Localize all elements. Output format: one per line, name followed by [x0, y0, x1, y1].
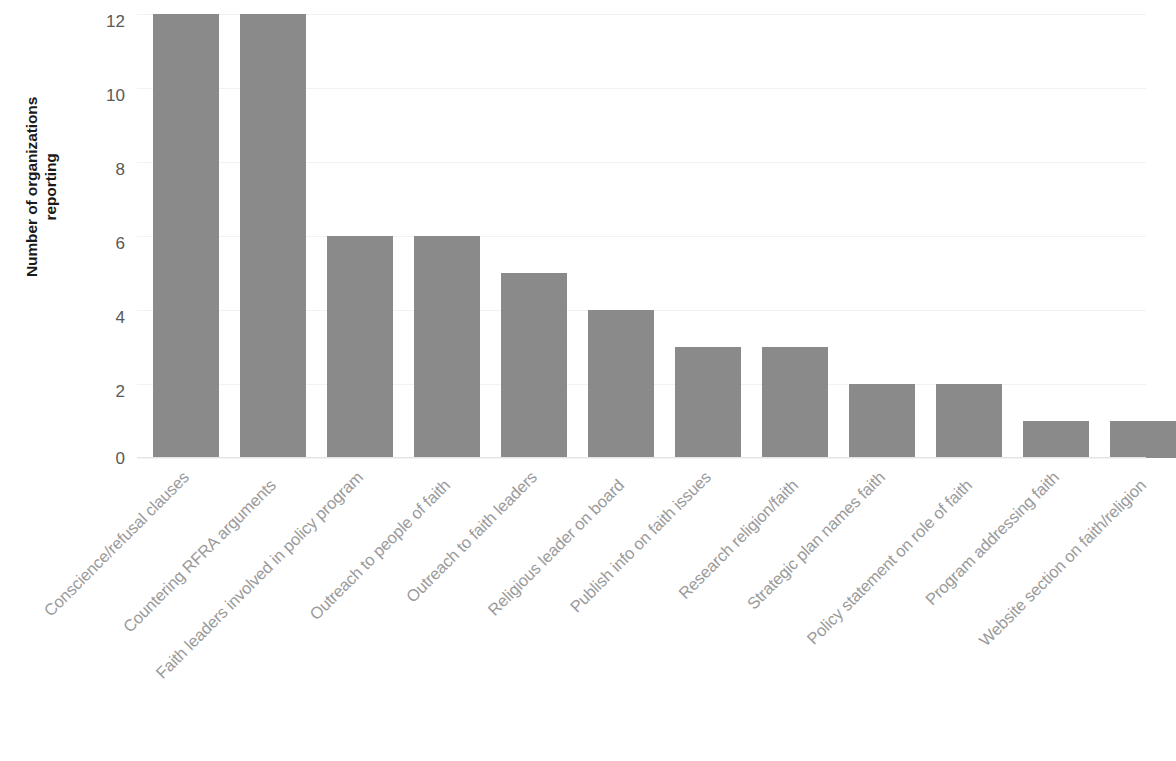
y-axis-tick-labels: 12 10 8 6 4 2 0 — [75, 0, 125, 470]
y-axis-title-line-2: reporting — [42, 97, 61, 277]
y-axis-title-line-1: Number of organizations — [23, 97, 40, 277]
bar — [762, 347, 828, 458]
bar — [588, 310, 654, 458]
y-tick-label-0: 0 — [85, 450, 125, 467]
x-axis-label: Religious leader on board — [191, 476, 627, 761]
x-axis-label: Conscience/refusal clauses — [0, 468, 192, 761]
y-axis-title: Number of organizations reporting — [2, 0, 82, 470]
x-axis-label: Strategic plan names faith — [452, 468, 888, 761]
x-axis-label: Policy statement on role of faith — [539, 476, 975, 761]
y-tick-label-6: 6 — [85, 235, 125, 252]
x-axis-label: Outreach to faith leaders — [104, 468, 540, 761]
x-axis-label: Program addressing faith — [626, 468, 1062, 761]
bar — [240, 14, 306, 458]
x-axis-label: Publish info on faith issues — [278, 468, 714, 761]
bar — [1023, 421, 1089, 458]
bar — [414, 236, 480, 458]
x-axis-line — [137, 457, 1146, 458]
y-tick-label-4: 4 — [85, 309, 125, 326]
x-axis-label: Outreach to people of faith — [17, 476, 453, 761]
bar — [936, 384, 1002, 458]
x-axis-label: Website section on faith/religion — [713, 476, 1149, 761]
bar — [501, 273, 567, 458]
plot-area — [137, 14, 1146, 458]
bar — [1110, 421, 1176, 458]
bar — [327, 236, 393, 458]
gridline-0 — [137, 458, 1146, 459]
x-axis-label: Faith leaders involved in policy program — [0, 468, 366, 761]
y-tick-label-2: 2 — [85, 383, 125, 400]
x-axis-label: Research religion/faith — [365, 476, 801, 761]
y-tick-label-12: 12 — [85, 13, 125, 30]
bar — [849, 384, 915, 458]
y-tick-label-8: 8 — [85, 161, 125, 178]
bar — [153, 14, 219, 458]
x-axis-label: Countering RFRA arguments — [0, 476, 279, 761]
y-tick-label-10: 10 — [85, 87, 125, 104]
bar — [675, 347, 741, 458]
